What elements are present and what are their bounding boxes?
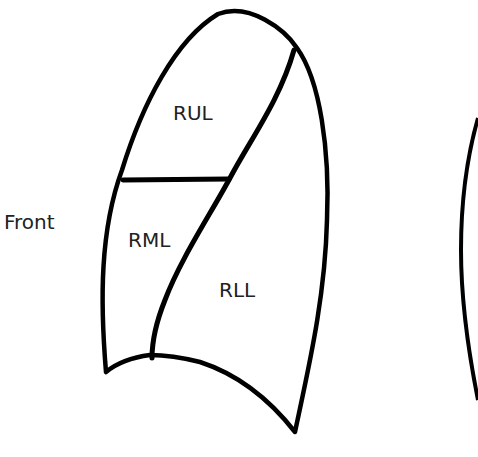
left-lung-partial-outline (461, 118, 478, 400)
horizontal-fissure (123, 179, 229, 180)
lobe-label-rll: RLL (219, 280, 255, 300)
right-lung-outline (103, 11, 328, 432)
lobe-label-rul: RUL (173, 103, 213, 123)
front-label: Front (4, 212, 55, 232)
lobe-label-rml: RML (128, 230, 170, 250)
lung-diagram: Front RUL RML RLL (0, 0, 478, 457)
oblique-fissure (152, 50, 294, 358)
lung-outline-drawing (0, 0, 478, 457)
